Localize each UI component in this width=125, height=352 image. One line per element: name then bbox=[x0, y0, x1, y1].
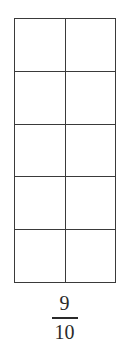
grid-cell bbox=[66, 177, 117, 230]
grid-cell bbox=[66, 125, 117, 178]
fraction-grid bbox=[14, 18, 116, 283]
grid-cell bbox=[15, 177, 66, 230]
grid-cell bbox=[15, 125, 66, 178]
grid-cell bbox=[66, 72, 117, 125]
grid-cell bbox=[15, 72, 66, 125]
fraction-numerator: 9 bbox=[56, 292, 70, 314]
fraction-bar bbox=[52, 317, 78, 319]
fraction-denominator: 10 bbox=[51, 321, 75, 343]
fraction-label: 9 10 bbox=[0, 292, 125, 343]
grid-cell bbox=[15, 230, 66, 283]
grid-cell bbox=[66, 230, 117, 283]
grid-cell bbox=[15, 19, 66, 72]
grid-cell bbox=[66, 19, 117, 72]
